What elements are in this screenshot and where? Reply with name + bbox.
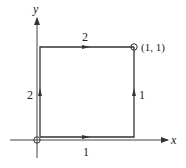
path-2-left-label: 2 xyxy=(27,88,33,102)
path-2 xyxy=(38,45,134,137)
path-1-right-label: 1 xyxy=(139,88,145,102)
path-2-top-arrow-icon xyxy=(82,45,90,49)
end-point-label: (1, 1) xyxy=(141,41,165,54)
path-1-right-arrow-icon xyxy=(132,88,136,96)
contour-diagram: y x (1, 1) 2 2 1 1 xyxy=(0,0,186,168)
path-2-top-label: 2 xyxy=(82,30,88,44)
path-1 xyxy=(40,47,136,139)
y-axis-label: y xyxy=(32,2,39,16)
path-1-bottom-arrow-icon xyxy=(82,135,90,139)
path-2-left-arrow-icon xyxy=(38,88,42,96)
diagram-canvas: y x (1, 1) 2 2 1 1 xyxy=(0,0,186,168)
x-axis-label: x xyxy=(170,133,177,147)
path-1-bottom-label: 1 xyxy=(83,145,89,159)
